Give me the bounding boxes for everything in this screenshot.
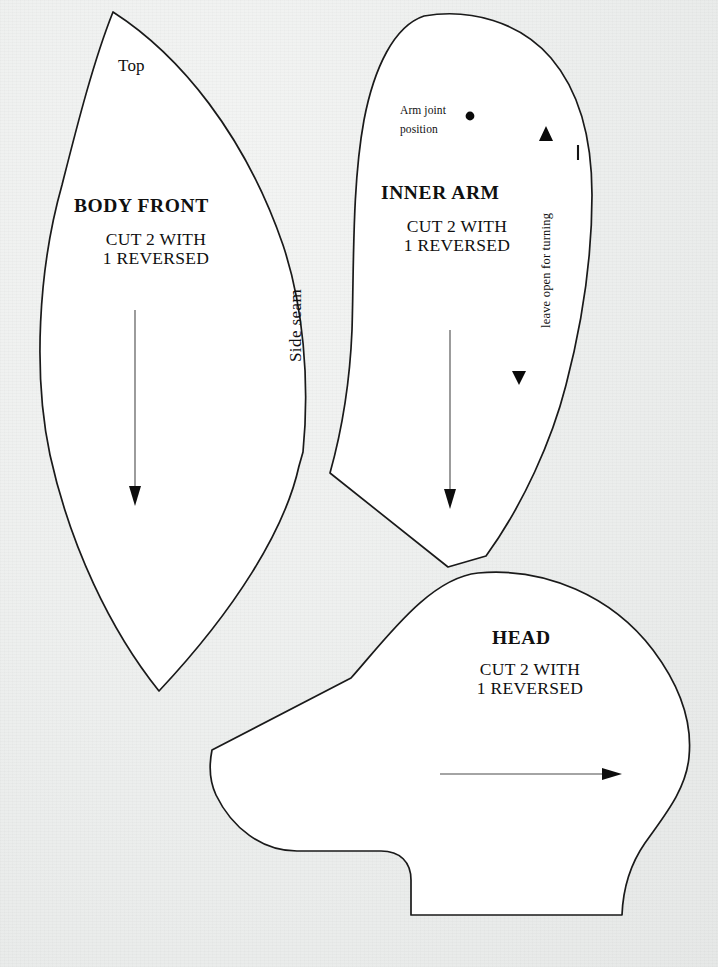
- inner-arm-leave-open-label: leave open for turning: [539, 213, 553, 328]
- head-cut-instructions: CUT 2 WITH 1 REVERSED: [456, 660, 604, 699]
- inner-arm-cut-instructions: CUT 2 WITH 1 REVERSED: [383, 217, 531, 256]
- arm-joint-label-line-1: Arm joint: [400, 104, 446, 117]
- inner-arm-cut-line-2: 1 REVERSED: [383, 236, 531, 255]
- body-front-cut-instructions: CUT 2 WITH 1 REVERSED: [82, 230, 230, 269]
- body-front-side-seam-label: Side seam: [286, 289, 305, 362]
- inner-arm-cut-line-1: CUT 2 WITH: [383, 217, 531, 236]
- arm-joint-label-line-2: position: [400, 123, 438, 136]
- body-front-top-label: Top: [118, 56, 145, 75]
- body-front-cut-line-1: CUT 2 WITH: [82, 230, 230, 249]
- pattern-drawing-canvas: [0, 0, 718, 967]
- body-front-cut-line-2: 1 REVERSED: [82, 249, 230, 268]
- head-fill: [210, 572, 689, 915]
- head-cut-line-1: CUT 2 WITH: [456, 660, 604, 679]
- body-front-title: BODY FRONT: [74, 195, 209, 217]
- piece-body-front[interactable]: [40, 12, 306, 691]
- head-title: HEAD: [492, 627, 551, 649]
- head-cut-line-2: 1 REVERSED: [456, 679, 604, 698]
- inner-arm-title: INNER ARM: [381, 182, 500, 204]
- arm-joint-position-dot: [466, 112, 475, 121]
- pattern-sheet: Top BODY FRONT CUT 2 WITH 1 REVERSED Sid…: [0, 0, 718, 967]
- piece-head[interactable]: [210, 572, 689, 915]
